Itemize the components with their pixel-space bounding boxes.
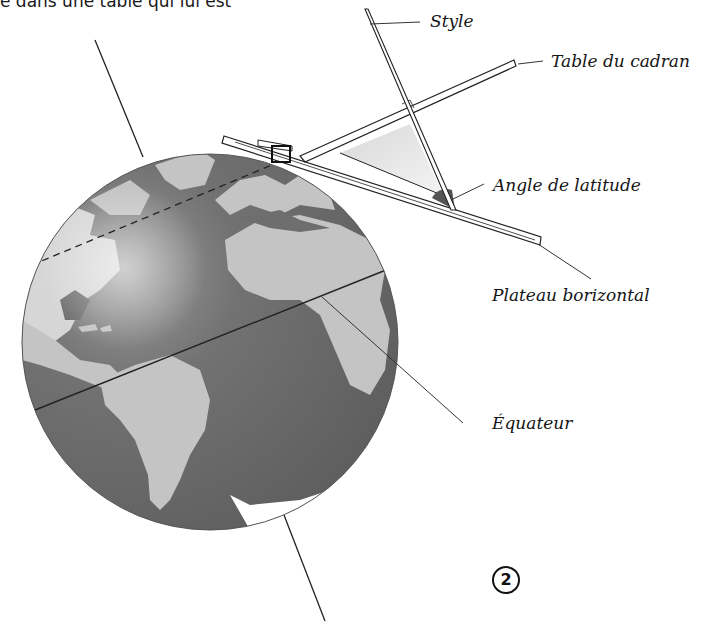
label-table-du-cadran: Table du cadran [551,51,690,71]
figure-number-badge: 2 [492,566,520,594]
label-style: Style [430,11,474,31]
diagram-graphic [0,0,711,630]
label-angle-de-latitude: Angle de latitude [493,175,641,195]
label-plateau-horizontal: Plateau borizontal [492,285,650,305]
polar-axis-south [284,515,325,621]
polar-axis-north [95,40,143,157]
sundial-globe-diagram: e dans une table qui lui est [0,0,711,630]
label-equateur: Équateur [492,413,572,433]
